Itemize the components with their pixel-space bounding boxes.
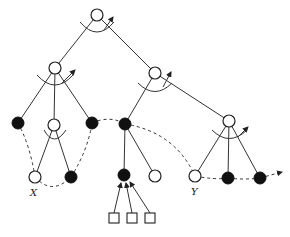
node-y <box>189 170 201 182</box>
node-b23 <box>254 172 266 184</box>
leaf-square <box>127 213 137 223</box>
tree-edges <box>18 15 260 213</box>
leaf-square <box>145 213 155 223</box>
tree-diagram: X Y <box>0 0 290 237</box>
rotation-arcs <box>37 17 248 139</box>
node-root <box>91 9 103 21</box>
label-y: Y <box>191 186 199 197</box>
node-b1 <box>119 118 131 130</box>
node-b22 <box>222 172 234 184</box>
node-b2 <box>223 115 235 127</box>
node-b12 <box>149 170 161 182</box>
leaf-squares <box>109 213 155 223</box>
node-a3 <box>86 117 98 129</box>
label-x: X <box>29 187 38 198</box>
node-x <box>29 171 41 183</box>
node-a22 <box>65 171 77 183</box>
node-a1 <box>12 117 24 129</box>
node-b11 <box>118 169 130 181</box>
leaf-square <box>109 213 119 223</box>
node-b <box>149 67 161 79</box>
node-a <box>49 62 61 74</box>
node-a2 <box>48 119 60 131</box>
